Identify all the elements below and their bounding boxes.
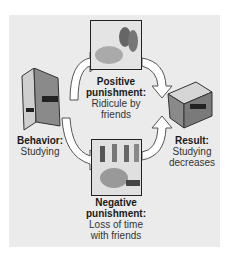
result-title: Result: <box>164 135 220 146</box>
result-line2: decreases <box>164 157 220 168</box>
positive-title: Positive punishment: <box>72 76 160 98</box>
behavior-label: Behavior: Studying <box>12 135 68 157</box>
result-line1: Studying <box>164 146 220 157</box>
behavior-title: Behavior: <box>12 135 68 146</box>
book-behavior-icon <box>18 68 68 133</box>
behavior-text: Studying <box>12 146 68 157</box>
negative-punishment-label: Negative punishment: Loss of time with f… <box>72 197 160 241</box>
positive-line1: Ridicule by <box>72 98 160 109</box>
positive-punishment-label: Positive punishment: Ridicule by friends <box>72 76 160 120</box>
negative-title: Negative punishment: <box>72 197 160 219</box>
result-label: Result: Studying decreases <box>164 135 220 168</box>
negative-line1: Loss of time <box>72 219 160 230</box>
negative-punishment-photo <box>91 139 142 196</box>
positive-line2: friends <box>72 109 160 120</box>
positive-punishment-photo <box>90 20 142 70</box>
negative-line2: with friends <box>72 230 160 241</box>
book-result-icon <box>166 78 216 133</box>
